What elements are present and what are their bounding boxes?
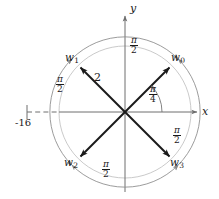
separation-label-right-numerator: π <box>173 126 181 135</box>
vector-w1 <box>81 68 126 113</box>
root-label-w0-index: 0 <box>180 56 185 65</box>
x-axis-label: x <box>202 106 208 117</box>
root-label-w2-index: 2 <box>73 161 78 170</box>
root-label-w2-name: w <box>64 156 73 168</box>
separation-label-bottom: π 2 <box>102 160 110 179</box>
root-label-w1-name: w <box>65 51 74 63</box>
separation-label-left-numerator: π <box>56 75 64 84</box>
y-axis-label: y <box>130 3 136 14</box>
root-label-w3-index: 3 <box>179 161 184 170</box>
x-tick-label-minus16: -16 <box>15 118 31 128</box>
root-label-w0: w0 <box>171 52 185 65</box>
roots-diagram-figure: x y -16 2 w0 w1 w2 w3 π 4 π 2 π 2 π 2 π … <box>0 0 219 199</box>
separation-label-top-numerator: π <box>130 36 138 45</box>
separation-label-left-denominator: 2 <box>56 84 64 94</box>
separation-label-bottom-denominator: 2 <box>102 169 110 179</box>
separation-label-top: π 2 <box>130 36 138 55</box>
root-label-w3-name: w <box>170 156 179 168</box>
separation-label-top-denominator: 2 <box>130 45 138 55</box>
vector-w0 <box>125 68 170 113</box>
root-label-w3: w3 <box>170 157 184 170</box>
separation-label-right-denominator: 2 <box>173 135 181 145</box>
separation-label-left: π 2 <box>56 75 64 94</box>
vector-w2 <box>81 112 126 157</box>
angle-label-pi-over-4: π 4 <box>149 85 157 104</box>
angle-label-denominator: 4 <box>149 94 157 104</box>
angle-label-numerator: π <box>149 85 157 94</box>
root-label-w2: w2 <box>64 157 78 170</box>
vector-w3 <box>125 112 170 157</box>
root-label-w1: w1 <box>65 52 79 65</box>
magnitude-label: 2 <box>94 72 101 83</box>
root-label-w1-index: 1 <box>74 56 79 65</box>
root-label-w0-name: w <box>171 51 180 63</box>
separation-label-right: π 2 <box>173 126 181 145</box>
separation-label-bottom-numerator: π <box>102 160 110 169</box>
